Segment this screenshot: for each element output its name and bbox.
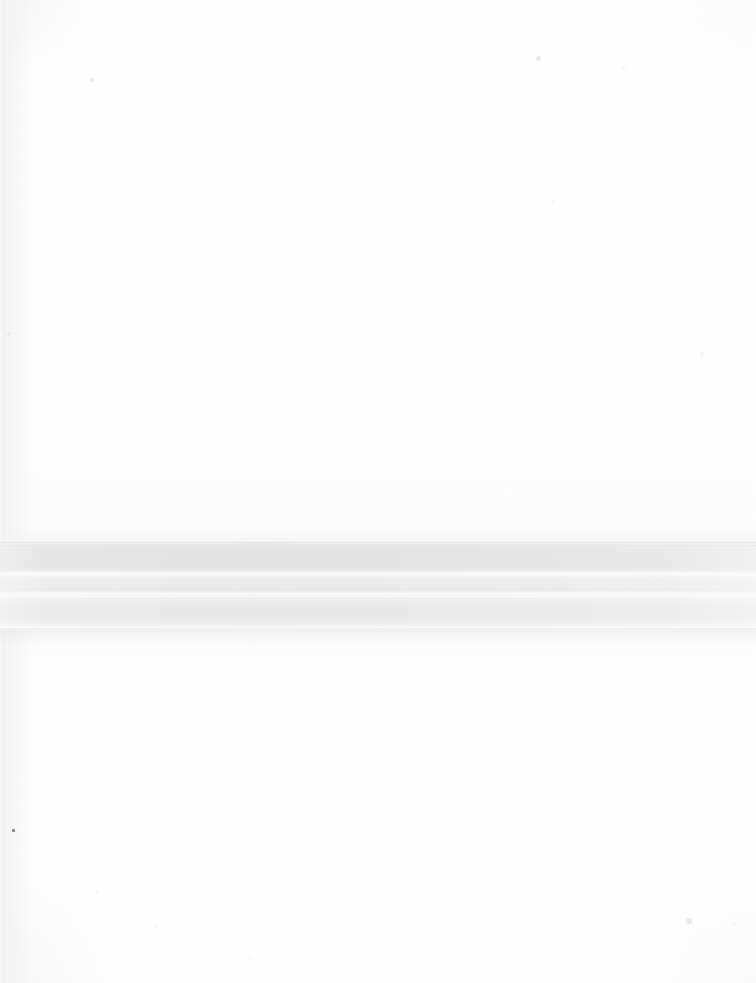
scanned-page <box>0 0 756 983</box>
dust-speck <box>673 630 675 632</box>
shadow-band-lower-glow <box>0 628 756 646</box>
dust-speck <box>552 200 555 203</box>
dust-speck <box>248 958 250 960</box>
shadow-band-upper-glow <box>0 526 756 542</box>
dust-speck <box>700 352 704 356</box>
dust-speck <box>330 566 332 568</box>
left-gutter-falloff <box>8 0 34 983</box>
dust-speck <box>686 918 692 924</box>
dust-speck <box>733 922 736 925</box>
dust-speck <box>452 564 454 566</box>
shadow-band-top-edge <box>0 542 756 543</box>
dust-speck <box>166 921 168 923</box>
dust-speck <box>536 56 541 61</box>
corner-shading-top-right <box>556 0 756 150</box>
dust-speck <box>375 947 377 949</box>
dust-speck <box>7 332 11 336</box>
dust-speck <box>90 78 94 82</box>
dust-speck <box>12 829 15 832</box>
dust-speck <box>95 890 98 893</box>
dust-speck <box>60 618 63 621</box>
dust-speck <box>252 594 254 596</box>
dust-speck <box>622 66 625 69</box>
shadow-band-highlight-line-lower <box>0 593 756 595</box>
dust-speck <box>155 924 158 927</box>
shadow-band-top-edge-secondary <box>0 545 756 546</box>
corner-shading-bottom-right <box>576 823 756 983</box>
shadow-band-highlight-line-upper <box>0 573 756 575</box>
dust-speck <box>549 554 552 557</box>
shadow-band-lateral-shading <box>0 542 756 628</box>
